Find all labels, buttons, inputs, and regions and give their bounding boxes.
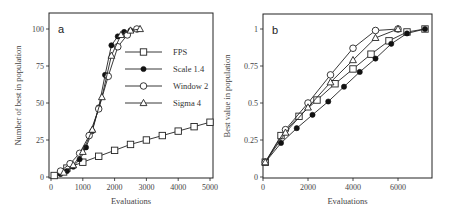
panel-label: a <box>58 23 65 35</box>
diamond-marker-icon <box>389 41 394 46</box>
x-axis-title: Evaluations <box>111 196 151 206</box>
series-line <box>265 29 425 162</box>
diamond-marker-icon <box>109 43 114 48</box>
square-marker-icon <box>159 132 165 138</box>
plot-frame <box>49 13 213 178</box>
diamond-marker-icon <box>310 112 315 117</box>
square-marker-icon <box>111 147 117 153</box>
diamond-marker-icon <box>422 26 427 31</box>
diamond-marker-icon <box>141 66 146 71</box>
y-tick-label: 1 <box>254 25 258 34</box>
legend-label: Scale 1.4 <box>173 64 205 74</box>
series-fps <box>262 26 428 166</box>
series-line <box>265 29 425 162</box>
y-tick-label: 0.75 <box>244 62 258 71</box>
x-tick-label: 4000 <box>345 183 361 192</box>
x-axis-title: Evaluations <box>327 196 367 206</box>
figure-svg: a0100020003000400050000255075100Evaluati… <box>0 0 449 217</box>
panel-b-chart: b020004000600000.250.50.751EvaluationsBe… <box>222 14 432 206</box>
triangle-marker-icon <box>140 99 147 105</box>
diamond-marker-icon <box>357 69 362 74</box>
legend-label: Window 2 <box>173 81 208 91</box>
circle-marker-icon <box>140 83 147 90</box>
x-tick-label: 6000 <box>390 183 406 192</box>
x-tick-label: 0 <box>261 183 265 192</box>
circle-marker-icon <box>372 27 379 34</box>
square-marker-icon <box>51 172 57 178</box>
x-tick-label: 3000 <box>138 183 154 192</box>
square-marker-icon <box>127 141 133 147</box>
legend-item: FPS <box>125 47 187 57</box>
plot-frame <box>263 14 432 178</box>
legend-item: Scale 1.4 <box>125 64 205 74</box>
legend: FPSScale 1.4Window 2Sigma 4 <box>125 47 208 108</box>
square-marker-icon <box>207 119 213 125</box>
diamond-marker-icon <box>326 99 331 104</box>
x-tick-label: 2000 <box>107 183 123 192</box>
y-axis-title: Best value in population <box>222 54 232 138</box>
legend-label: Sigma 4 <box>173 98 202 108</box>
series-fps <box>51 119 213 179</box>
diamond-marker-icon <box>373 56 378 61</box>
y-tick-label: 0 <box>254 173 258 182</box>
panel-a-chart: a0100020003000400050000255075100Evaluati… <box>13 13 218 206</box>
y-tick-label: 75 <box>36 62 44 71</box>
square-marker-icon <box>175 128 181 134</box>
y-axis-title: Number of best in population <box>13 45 23 146</box>
square-marker-icon <box>96 153 102 159</box>
square-marker-icon <box>191 123 197 129</box>
y-tick-label: 0.25 <box>244 136 258 145</box>
square-marker-icon <box>368 51 374 57</box>
y-tick-label: 25 <box>36 136 44 145</box>
panel-label: b <box>272 24 278 36</box>
x-tick-label: 0 <box>49 183 53 192</box>
y-tick-label: 0.5 <box>248 99 258 108</box>
legend-item: Window 2 <box>125 81 208 91</box>
series-line <box>64 29 140 173</box>
legend-label: FPS <box>173 47 187 57</box>
y-tick-label: 100 <box>32 25 44 34</box>
series-line <box>54 122 210 175</box>
figure: a0100020003000400050000255075100Evaluati… <box>0 0 449 217</box>
diamond-marker-icon <box>341 84 346 89</box>
diamond-marker-icon <box>404 31 409 36</box>
square-marker-icon <box>143 137 149 143</box>
circle-marker-icon <box>350 45 357 52</box>
y-tick-label: 0 <box>40 173 44 182</box>
series-line <box>61 31 131 175</box>
square-marker-icon <box>140 49 146 55</box>
x-tick-label: 2000 <box>300 183 316 192</box>
x-tick-label: 5000 <box>202 183 218 192</box>
diamond-marker-icon <box>294 126 299 131</box>
triangle-marker-icon <box>98 93 105 99</box>
square-marker-icon <box>350 66 356 72</box>
triangle-marker-icon <box>89 126 96 132</box>
x-tick-label: 4000 <box>170 183 186 192</box>
legend-item: Sigma 4 <box>125 98 202 108</box>
circle-marker-icon <box>327 72 334 79</box>
x-tick-label: 1000 <box>75 183 91 192</box>
series-scale-1-4 <box>263 26 428 164</box>
y-tick-label: 50 <box>36 99 44 108</box>
